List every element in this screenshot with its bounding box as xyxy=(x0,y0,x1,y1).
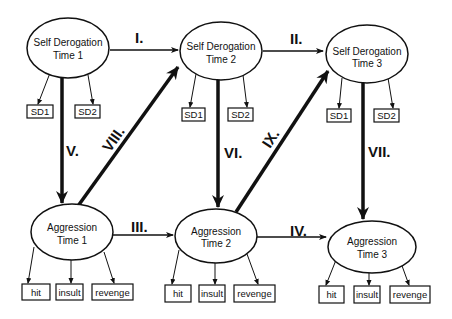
path-IV-label: IV. xyxy=(290,222,307,239)
indicator-sd1-time-1: SD1 xyxy=(27,105,53,118)
indicator-label: revenge xyxy=(237,288,271,299)
node-label-line2: Time 1 xyxy=(57,235,88,246)
indicator-label: hit xyxy=(326,289,336,300)
cross-lagged-diagram: I. II. III. IV. V. VI. VII. VIII. IX. xyxy=(0,0,452,319)
node-aggression-time-3: Aggression Time 3 xyxy=(328,221,416,273)
indicator-label: insult xyxy=(58,287,81,298)
node-label-line1: Self Derogation xyxy=(187,41,256,52)
indicator-insult-time-2: insult xyxy=(199,285,225,302)
path-VIII-arrow xyxy=(78,67,178,206)
node-label-line2: Time 3 xyxy=(357,249,388,260)
node-aggression-time-2: Aggression Time 2 xyxy=(175,209,257,263)
node-label-line1: Aggression xyxy=(347,236,397,247)
indicator-insult-time-1: insult xyxy=(56,284,83,300)
path-IX: IX. xyxy=(236,71,328,212)
path-VI-label: VI. xyxy=(224,144,242,161)
indicator-label: insult xyxy=(356,289,379,300)
node-self-derogation-time-2: Self Derogation Time 2 xyxy=(180,22,262,80)
path-VIII: VIII. xyxy=(78,67,178,206)
path-VII-label: VII. xyxy=(368,143,391,160)
node-label-line1: Aggression xyxy=(191,226,241,237)
path-VIII-label: VIII. xyxy=(99,123,128,155)
indicator-label: SD2 xyxy=(231,109,249,120)
path-III: III. xyxy=(113,218,173,235)
indicator-sd1-time-3: SD1 xyxy=(327,109,351,122)
path-VII: VII. xyxy=(363,83,391,219)
indicator-label: hit xyxy=(31,287,41,298)
indicator-label: insult xyxy=(201,288,224,299)
indicator-hit-time-3: hit xyxy=(319,286,344,303)
indicator-label: SD2 xyxy=(377,110,395,121)
path-V: V. xyxy=(62,77,79,203)
indicator-revenge-time-1: revenge xyxy=(92,284,133,300)
path-I-label: I. xyxy=(135,29,143,46)
indicator-revenge-time-2: revenge xyxy=(234,285,275,302)
path-II: II. xyxy=(263,30,323,51)
node-label-line1: Self Derogation xyxy=(34,37,103,48)
node-label-line1: Aggression xyxy=(47,222,97,233)
node-label-line1: Self Derogation xyxy=(333,46,402,57)
path-II-label: II. xyxy=(290,30,303,47)
indicator-sd2-time-2: SD2 xyxy=(228,108,253,121)
node-aggression-time-1: Aggression Time 1 xyxy=(31,204,113,260)
node-self-derogation-time-3: Self Derogation Time 3 xyxy=(326,25,408,83)
node-label-line2: Time 2 xyxy=(206,54,237,65)
indicator-label: SD1 xyxy=(330,110,348,121)
node-label-line2: Time 2 xyxy=(201,238,232,249)
indicator-sd1-time-2: SD1 xyxy=(182,108,205,121)
indicator-label: hit xyxy=(173,288,183,299)
indicator-label: SD1 xyxy=(31,106,49,117)
path-V-label: V. xyxy=(66,142,79,159)
path-III-label: III. xyxy=(131,218,148,235)
indicator-label: revenge xyxy=(393,289,427,300)
indicator-revenge-time-3: revenge xyxy=(390,286,430,303)
path-VI: VI. xyxy=(218,80,242,207)
node-label-line2: Time 1 xyxy=(53,50,84,61)
indicator-sd2-time-1: SD2 xyxy=(75,105,100,118)
node-self-derogation-time-1: Self Derogation Time 1 xyxy=(27,18,109,78)
indicator-hit-time-2: hit xyxy=(165,285,191,302)
path-I: I. xyxy=(110,29,178,50)
indicator-label: SD2 xyxy=(78,106,96,117)
path-IV: IV. xyxy=(257,222,326,239)
node-label-line2: Time 3 xyxy=(352,58,383,69)
indicator-label: revenge xyxy=(95,287,129,298)
indicator-insult-time-3: insult xyxy=(354,286,380,303)
indicator-label: SD1 xyxy=(184,109,202,120)
indicator-hit-time-1: hit xyxy=(22,284,50,300)
path-IX-arrow xyxy=(236,71,328,212)
indicator-sd2-time-3: SD2 xyxy=(374,109,399,122)
